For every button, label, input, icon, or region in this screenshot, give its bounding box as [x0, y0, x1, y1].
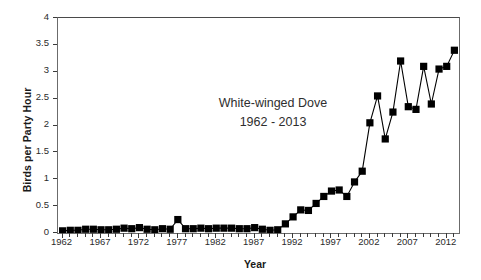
data-point-marker [213, 225, 220, 232]
data-point-marker [74, 227, 81, 233]
data-point-marker [313, 200, 320, 207]
data-point-marker [259, 226, 266, 233]
x-tick-label: 1987 [234, 236, 274, 247]
data-point-marker [428, 100, 435, 107]
x-tick-label: 1977 [157, 236, 197, 247]
data-point-marker [443, 63, 450, 70]
data-point-marker [174, 216, 181, 223]
y-tick-label: 0.5 [9, 200, 49, 210]
y-tick-label: 3 [9, 65, 49, 75]
data-point-marker [405, 103, 412, 110]
y-tick-label: 2 [9, 119, 49, 129]
data-point-marker [205, 225, 212, 232]
data-point-marker [159, 225, 166, 232]
x-axis-title: Year [46, 258, 464, 270]
data-point-marker [343, 193, 350, 200]
data-point-marker [190, 225, 197, 232]
data-point-marker [128, 225, 135, 232]
data-point-marker [167, 226, 174, 233]
data-point-marker [435, 65, 442, 72]
data-point-marker [282, 220, 289, 227]
series-line [63, 50, 455, 231]
y-tick-label: 0 [9, 227, 49, 237]
data-point-marker [328, 187, 335, 194]
data-point-marker [251, 224, 258, 231]
data-point-marker [144, 226, 151, 233]
data-point-marker [236, 225, 243, 232]
data-point-marker [59, 227, 66, 233]
data-point-marker [120, 225, 127, 232]
data-point-marker [359, 168, 366, 175]
y-tick-label: 1 [9, 173, 49, 183]
data-point-marker [97, 226, 104, 233]
x-tick-label: 1992 [272, 236, 312, 247]
data-point-marker [297, 206, 304, 213]
x-tick-label: 1997 [310, 236, 350, 247]
data-point-marker [151, 226, 158, 233]
data-point-marker [412, 106, 419, 113]
x-tick-label: 1972 [118, 236, 158, 247]
chart-title: White-winged Dove [188, 94, 358, 113]
data-point-marker [397, 57, 404, 64]
x-tick-label: 1967 [80, 236, 120, 247]
data-point-marker [305, 207, 312, 214]
data-point-marker [374, 92, 381, 99]
chart-figure: Birds per Party Hour 00.511.522.533.54 W… [0, 0, 481, 280]
data-point-marker [105, 226, 112, 233]
y-tick-label: 1.5 [9, 146, 49, 156]
data-point-marker [136, 224, 143, 231]
x-tick-label: 2002 [349, 236, 389, 247]
data-point-marker [382, 135, 389, 142]
data-point-marker [351, 178, 358, 185]
data-point-marker [197, 225, 204, 232]
y-tick-label: 3.5 [9, 38, 49, 48]
data-point-marker [274, 226, 281, 233]
data-point-marker [220, 225, 227, 232]
data-point-marker [266, 227, 273, 233]
data-point-marker [366, 119, 373, 126]
x-tick-label: 1982 [195, 236, 235, 247]
x-tick-label: 2012 [426, 236, 466, 247]
data-point-marker [389, 108, 396, 115]
data-point-marker [243, 225, 250, 232]
data-point-marker [182, 225, 189, 232]
data-point-marker [67, 227, 74, 233]
data-point-marker [228, 225, 235, 232]
chart-subtitle: 1962 - 2013 [188, 113, 358, 132]
data-point-marker [420, 63, 427, 70]
x-tick-label: 1962 [42, 236, 82, 247]
plot-area: White-winged Dove 1962 - 2013 [57, 17, 460, 234]
y-tick-label: 4 [9, 12, 49, 22]
x-tick-label: 2007 [387, 236, 427, 247]
data-point-marker [90, 226, 97, 233]
data-point-marker [320, 193, 327, 200]
data-point-marker [289, 213, 296, 220]
data-point-marker [82, 226, 89, 233]
data-point-marker [336, 186, 343, 193]
chart-annotation: White-winged Dove 1962 - 2013 [188, 94, 358, 132]
data-point-marker [113, 226, 120, 233]
y-tick-label: 2.5 [9, 92, 49, 102]
data-point-marker [451, 47, 458, 54]
